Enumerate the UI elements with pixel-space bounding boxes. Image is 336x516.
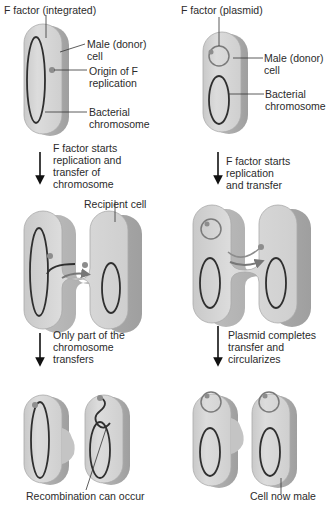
- recombination-label: Recombination can occur: [26, 490, 144, 502]
- right-step1-line1: F factor starts: [226, 155, 290, 167]
- left-stage1-cell: [24, 24, 69, 136]
- right-chromosome-label-2: chromosome: [265, 100, 326, 112]
- left-chromosome-label-2: chromosome: [89, 118, 150, 130]
- recipient-label: Recipient cell: [84, 198, 146, 210]
- right-step2-line1: Plasmid completes: [228, 329, 316, 341]
- left-stage3-cells: [24, 395, 130, 485]
- right-male-label-1: Male (donor): [264, 52, 324, 64]
- left-stage2-pair: [24, 211, 142, 333]
- origin-label-1: Origin of F: [89, 65, 138, 77]
- now-male-label: Cell now male: [250, 490, 316, 502]
- right-step1-line2: replication: [226, 167, 274, 179]
- left-chromosome-label-1: Bacterial: [89, 106, 130, 118]
- left-male-label-1: Male (donor): [87, 38, 147, 50]
- right-step1-line3: and transfer: [226, 179, 282, 191]
- right-step2-line2: transfer and: [228, 341, 284, 353]
- right-chromosome-label-1: Bacterial: [265, 88, 306, 100]
- right-stage1-cell: [203, 32, 248, 134]
- conjugation-diagram: [0, 0, 336, 516]
- right-heading: F factor (plasmid): [181, 4, 263, 16]
- right-male-label-2: cell: [264, 64, 280, 76]
- left-step2-line1: Only part of the: [53, 329, 125, 341]
- left-heading: F factor (integrated): [4, 4, 96, 16]
- left-step1-line1: F factor starts: [53, 142, 117, 154]
- left-male-label-2: cell: [87, 50, 103, 62]
- origin-label-2: replication: [89, 77, 137, 89]
- left-step2-line3: transfers: [53, 353, 94, 365]
- left-step1-line4: chromosome: [53, 178, 114, 190]
- right-step2-line3: circularizes: [228, 353, 281, 365]
- right-stage2-pair: [193, 205, 311, 327]
- right-stage3-cells: [193, 392, 297, 488]
- left-step2-line2: chromosome: [53, 341, 114, 353]
- left-step1-line2: replication and: [53, 154, 121, 166]
- left-step1-line3: transfer of: [53, 166, 100, 178]
